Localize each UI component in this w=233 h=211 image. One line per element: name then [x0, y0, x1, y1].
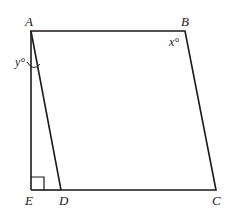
angle-label-y: y° — [14, 55, 25, 69]
right-angle-marker — [31, 177, 44, 190]
parallelogram-abcd — [31, 31, 216, 190]
geometry-figure: A B C D E x° y° — [0, 0, 233, 211]
label-e: E — [24, 193, 33, 208]
label-b: B — [181, 14, 189, 29]
label-a: A — [24, 14, 33, 29]
angle-label-x: x° — [168, 35, 179, 49]
label-c: C — [212, 193, 221, 208]
label-d: D — [58, 193, 69, 208]
